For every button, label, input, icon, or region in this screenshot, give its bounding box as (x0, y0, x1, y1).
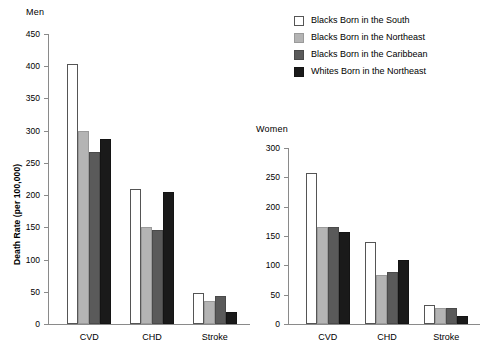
legend-swatch-icon-blacks-northeast (294, 33, 304, 43)
bar-men-chd-whites_northeast (163, 192, 174, 324)
legend-item-blacks-northeast: Blacks Born in the Northeast (294, 29, 428, 46)
bar-women-chd-blacks_northeast (376, 275, 387, 324)
y-tick-women-6 (284, 148, 288, 149)
x-category-label-women-cvd: CVD (298, 332, 358, 342)
legend-label-blacks-caribbean: Blacks Born in the Caribbean (311, 50, 428, 59)
y-tick-men-8 (44, 66, 48, 67)
bar-women-chd-whites_northeast (398, 260, 409, 324)
bar-women-stroke-blacks_south (424, 305, 435, 324)
bar-men-chd-blacks_caribbean (152, 230, 163, 324)
bar-women-stroke-blacks_northeast (435, 308, 446, 324)
legend-item-blacks-caribbean: Blacks Born in the Caribbean (294, 46, 428, 63)
y-axis-line-women (288, 148, 289, 324)
y-tick-women-0 (284, 324, 288, 325)
bar-women-chd-blacks_south (365, 242, 376, 324)
legend-label-blacks-south: Blacks Born in the South (311, 16, 410, 25)
bar-men-chd-blacks_south (130, 189, 141, 324)
legend-item-whites-northeast: Whites Born in the Northeast (294, 63, 428, 80)
chart-legend: Blacks Born in the South Blacks Born in … (294, 12, 428, 80)
y-tick-label-men-9: 450 (10, 30, 40, 39)
y-tick-men-4 (44, 195, 48, 196)
x-category-label-men-stroke: Stroke (185, 332, 245, 342)
bar-men-stroke-blacks_northeast (204, 301, 215, 324)
x-axis-line-women (288, 324, 480, 325)
y-tick-label-women-5: 250 (250, 173, 280, 182)
x-category-label-men-chd: CHD (122, 332, 182, 342)
x-axis-line-men (48, 324, 250, 325)
y-tick-label-men-5: 250 (10, 159, 40, 168)
bar-men-cvd-blacks_caribbean (89, 152, 100, 324)
y-tick-men-9 (44, 34, 48, 35)
x-category-label-women-chd: CHD (357, 332, 417, 342)
y-tick-label-men-0: 0 (10, 320, 40, 329)
y-tick-women-1 (284, 295, 288, 296)
y-tick-label-men-6: 300 (10, 127, 40, 136)
y-tick-label-women-2: 100 (250, 261, 280, 270)
bar-women-chd-blacks_caribbean (387, 272, 398, 324)
y-tick-label-men-4: 200 (10, 191, 40, 200)
y-tick-label-men-3: 150 (10, 223, 40, 232)
bar-men-stroke-blacks_south (193, 293, 204, 324)
y-tick-men-5 (44, 163, 48, 164)
chart-title-men: Men (26, 7, 44, 17)
y-tick-women-4 (284, 207, 288, 208)
x-category-label-men-cvd: CVD (59, 332, 119, 342)
bar-women-cvd-blacks_caribbean (328, 227, 339, 324)
y-tick-label-women-3: 150 (250, 232, 280, 241)
y-tick-label-men-8: 400 (10, 62, 40, 71)
y-tick-women-3 (284, 236, 288, 237)
y-tick-label-men-7: 350 (10, 94, 40, 103)
bar-women-stroke-blacks_caribbean (446, 308, 457, 324)
legend-swatch-icon-blacks-caribbean (294, 50, 304, 60)
y-tick-men-0 (44, 324, 48, 325)
bar-women-cvd-blacks_northeast (317, 227, 328, 324)
x-category-label-women-stroke: Stroke (416, 332, 476, 342)
y-tick-men-1 (44, 292, 48, 293)
y-tick-label-men-2: 100 (10, 256, 40, 265)
y-tick-men-7 (44, 98, 48, 99)
bar-men-chd-blacks_northeast (141, 227, 152, 324)
legend-label-blacks-northeast: Blacks Born in the Northeast (311, 33, 425, 42)
y-axis-line-men (48, 34, 49, 324)
plot-area-men: 050100150200250300350400450CVDCHDStroke (48, 34, 236, 324)
legend-label-whites-northeast: Whites Born in the Northeast (311, 67, 426, 76)
y-tick-label-women-6: 300 (250, 144, 280, 153)
y-tick-label-men-1: 50 (10, 288, 40, 297)
bar-men-cvd-blacks_northeast (78, 131, 89, 324)
bar-men-cvd-whites_northeast (100, 139, 111, 324)
plot-area-women: 050100150200250300CVDCHDStroke (288, 148, 466, 324)
bar-women-stroke-whites_northeast (457, 316, 468, 324)
legend-swatch-icon-whites-northeast (294, 67, 304, 77)
bar-men-stroke-blacks_caribbean (215, 296, 226, 324)
bar-women-cvd-whites_northeast (339, 232, 350, 324)
chart-title-women: Women (256, 124, 288, 134)
y-tick-men-6 (44, 131, 48, 132)
legend-swatch-icon-blacks-south (294, 16, 304, 26)
legend-item-blacks-south: Blacks Born in the South (294, 12, 428, 29)
bar-men-stroke-whites_northeast (226, 312, 237, 324)
y-tick-label-women-4: 200 (250, 203, 280, 212)
y-tick-men-3 (44, 227, 48, 228)
bar-men-cvd-blacks_south (67, 64, 78, 324)
y-tick-women-2 (284, 265, 288, 266)
bar-women-cvd-blacks_south (306, 173, 317, 324)
y-axis-label-men: Death Rate (per 100,000) (12, 164, 22, 265)
y-tick-label-women-0: 0 (250, 320, 280, 329)
y-tick-women-5 (284, 177, 288, 178)
y-tick-men-2 (44, 260, 48, 261)
y-tick-label-women-1: 50 (250, 291, 280, 300)
